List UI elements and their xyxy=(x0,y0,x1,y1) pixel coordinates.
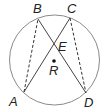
label-c: C xyxy=(67,1,77,16)
label-a: A xyxy=(8,94,18,109)
label-b: B xyxy=(33,1,42,16)
circle-diagram: B C E R A D xyxy=(0,0,108,111)
label-r: R xyxy=(49,63,58,78)
label-e: E xyxy=(58,39,67,54)
segment-cd xyxy=(70,18,86,93)
label-d: D xyxy=(84,95,93,110)
